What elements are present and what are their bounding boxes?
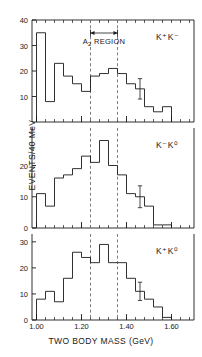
y-axis-label: EVENTS/40 MeV — [27, 95, 37, 215]
histogram-step — [37, 244, 172, 320]
histogram-step — [37, 141, 172, 229]
x-tick-label: 1.60 — [164, 322, 179, 331]
y-tick-label: 30 — [20, 42, 28, 51]
y-tick-label: 0 — [24, 316, 28, 325]
x-tick-label: 1.00 — [29, 322, 44, 331]
a2-region-label: A2 REGION — [83, 37, 126, 47]
a2-region-annotation: A2 REGION — [83, 30, 126, 47]
y-tick-label: 20 — [20, 264, 28, 273]
x-axis-label: TWO BODY MASS (GeV) — [0, 336, 202, 346]
a2-arrowhead-left — [91, 31, 95, 35]
panel-label: K⁺K⁻ — [156, 32, 180, 42]
y-tick-label: 40 — [20, 16, 28, 25]
panel-label: K⁻K⁰ — [156, 140, 179, 150]
y-tick-label: 30 — [20, 238, 28, 247]
y-tick-label: 0 — [24, 224, 28, 233]
panel-2: 1020300K⁺K⁰ — [20, 234, 194, 325]
x-tick-label: 1.20 — [74, 322, 89, 331]
y-tick-label: 20 — [20, 67, 28, 76]
a2-arrowhead-right — [114, 31, 118, 35]
y-tick-label: 10 — [20, 290, 28, 299]
panel-label: K⁺K⁰ — [156, 246, 179, 256]
x-tick-label: 1.40 — [119, 322, 134, 331]
panel-1: 10200K⁻K⁰ — [20, 128, 194, 233]
panel-0: 10203040K⁺K⁻ — [20, 16, 194, 122]
figure-root: 10203040K⁺K⁻10200K⁻K⁰1020300K⁺K⁰1.001.20… — [0, 0, 202, 357]
histogram-step — [37, 33, 172, 122]
